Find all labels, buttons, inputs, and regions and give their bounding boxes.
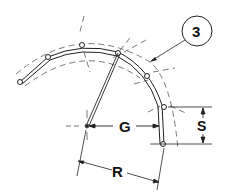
curved-rail	[20, 48, 164, 144]
dashed-guide-arcs	[16, 16, 188, 150]
center-mark	[66, 110, 89, 140]
node-2	[46, 55, 51, 60]
node-3	[80, 43, 85, 48]
node-1	[18, 80, 23, 85]
radius-dimension	[77, 130, 164, 190]
node-6	[162, 105, 167, 110]
curved-track-diagram: G S R 3	[0, 0, 225, 194]
callout-bubble	[150, 16, 212, 62]
radius-label: R	[112, 163, 123, 180]
gap-label: G	[119, 118, 131, 135]
radius-arm	[86, 53, 120, 126]
callout-number: 3	[192, 23, 200, 40]
spacing-label: S	[197, 118, 206, 134]
node-5	[145, 74, 150, 79]
rail-nodes	[18, 43, 167, 147]
